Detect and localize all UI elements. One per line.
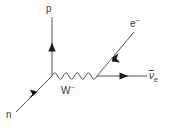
electron-charge-text: − bbox=[136, 17, 140, 24]
neutron-label: n bbox=[6, 110, 12, 120]
proton-label-text: p bbox=[46, 3, 52, 14]
neutron-arrowhead bbox=[29, 90, 37, 98]
w-boson-charge-text: − bbox=[70, 84, 74, 91]
feynman-diagram-graphics bbox=[0, 0, 175, 128]
electron-arrowhead bbox=[112, 53, 120, 62]
electron-line bbox=[97, 32, 134, 76]
antineutrino-subscript-text: e bbox=[154, 76, 158, 83]
proton-label: p bbox=[46, 4, 52, 14]
antineutrino-overbar: ν bbox=[149, 70, 154, 81]
proton-arrowhead bbox=[48, 43, 55, 52]
antineutrino-symbol-text: ν bbox=[149, 70, 154, 81]
w-boson-line bbox=[52, 73, 97, 80]
antineutrino-label: νe bbox=[149, 70, 158, 81]
w-boson-label: W− bbox=[61, 86, 75, 96]
feynman-diagram-canvas: p n W− e− νe bbox=[0, 0, 175, 128]
electron-label: e− bbox=[130, 19, 140, 29]
antineutrino-arrowhead bbox=[120, 73, 129, 80]
neutron-label-text: n bbox=[6, 109, 12, 120]
